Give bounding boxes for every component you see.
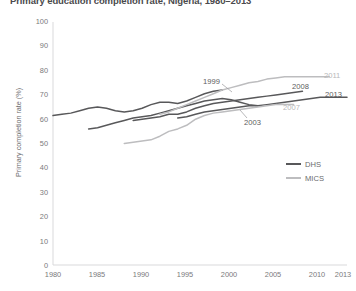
- legend-label-mics: MICS: [305, 174, 324, 183]
- legend-item-mics[interactable]: MICS: [286, 172, 346, 184]
- annotation-2003: 2003: [244, 118, 261, 127]
- annotation-2007: 2007: [283, 103, 300, 112]
- annotation-2011: 2011: [324, 71, 340, 80]
- annotation-2013: 2013: [325, 90, 342, 99]
- legend: DHS MICS: [286, 158, 346, 186]
- series-line-2008: [133, 91, 302, 120]
- series-line-2007: [124, 105, 293, 144]
- legend-item-dhs[interactable]: DHS: [286, 158, 346, 170]
- annotation-1999: 1999: [203, 77, 220, 86]
- legend-swatch-dhs: [286, 163, 301, 165]
- leader-2003: [240, 110, 247, 118]
- legend-swatch-mics: [286, 177, 301, 179]
- annotation-2008: 2008: [292, 82, 309, 91]
- legend-label-dhs: DHS: [305, 160, 321, 169]
- series-line-2013: [178, 97, 347, 118]
